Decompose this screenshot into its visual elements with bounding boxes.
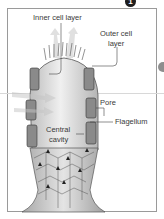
- flagella-top: [44, 42, 85, 60]
- label-outer-cell-layer-line1: Outer cell: [100, 29, 132, 38]
- label-inner-cell-layer: Inner cell layer: [33, 13, 82, 22]
- label-outer-cell-layer-line2: layer: [108, 39, 124, 48]
- label-flagellum: Flagellum: [115, 117, 148, 126]
- label-central-cavity-line2: cavity: [49, 135, 68, 144]
- label-pore: Pore: [100, 98, 116, 107]
- label-central-cavity-line1: Central: [46, 125, 70, 134]
- sponge-illustration: [0, 0, 164, 219]
